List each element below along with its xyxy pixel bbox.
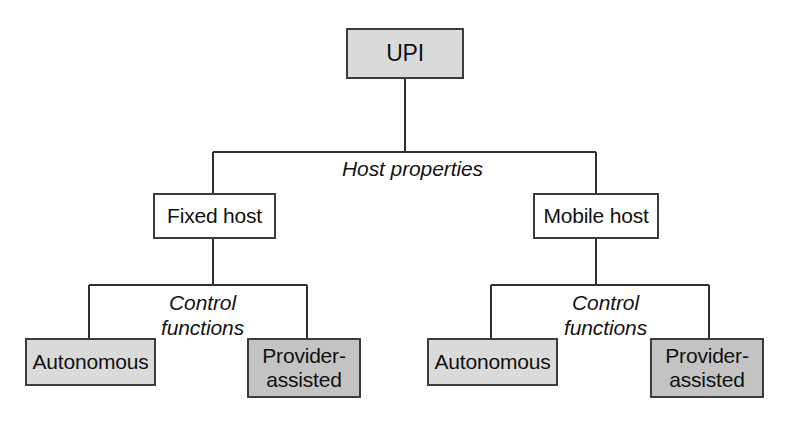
node-fixed-host-provider-assisted[interactable]: Provider- assisted xyxy=(247,338,361,398)
node-mobile-host[interactable]: Mobile host xyxy=(533,193,659,239)
edge-label-host-properties: Host properties xyxy=(305,157,520,182)
node-mobile-host-provider-assisted[interactable]: Provider- assisted xyxy=(650,338,764,398)
edge-label-control-functions-right: Control functions xyxy=(533,291,678,341)
diagram-canvas: UPI Host properties Fixed host Mobile ho… xyxy=(0,0,812,421)
node-upi[interactable]: UPI xyxy=(346,28,464,79)
edge-label-control-functions-left: Control functions xyxy=(130,291,275,341)
node-fixed-host-provider-assisted-label: Provider- assisted xyxy=(262,344,345,391)
node-upi-label: UPI xyxy=(386,41,424,67)
node-fixed-host-label: Fixed host xyxy=(167,204,262,228)
node-fixed-host-autonomous[interactable]: Autonomous xyxy=(25,338,156,386)
node-fixed-host-autonomous-label: Autonomous xyxy=(33,350,149,374)
node-mobile-host-label: Mobile host xyxy=(543,204,648,228)
node-mobile-host-autonomous[interactable]: Autonomous xyxy=(427,338,558,386)
node-mobile-host-provider-assisted-label: Provider- assisted xyxy=(665,344,748,391)
node-fixed-host[interactable]: Fixed host xyxy=(153,193,276,239)
node-mobile-host-autonomous-label: Autonomous xyxy=(435,350,551,374)
